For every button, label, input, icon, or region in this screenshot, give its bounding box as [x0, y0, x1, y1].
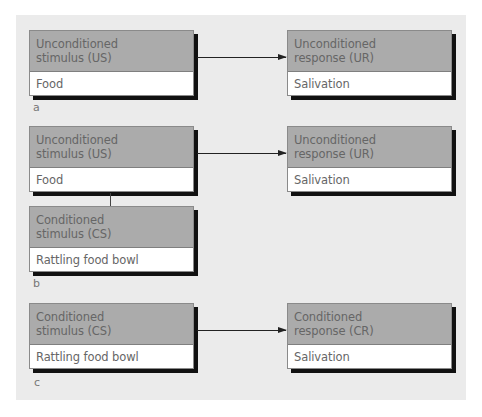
box-value: Salivation [288, 72, 451, 95]
box-header: Unconditioned stimulus (US) [30, 127, 193, 168]
box-b-unconditioned-stimulus: Unconditioned stimulus (US) Food [29, 126, 194, 192]
box-title-line2: response (CR) [294, 324, 445, 338]
box-title-line1: Unconditioned [36, 133, 187, 147]
box-title-line2: stimulus (CS) [36, 227, 187, 241]
box-header: Conditioned stimulus (CS) [30, 207, 193, 248]
pairing-connector-line [110, 193, 111, 206]
box-value: Rattling food bowl [30, 248, 193, 271]
box-header: Conditioned response (CR) [288, 304, 451, 345]
arrow-right-icon [197, 330, 286, 331]
box-b-conditioned-stimulus: Conditioned stimulus (CS) Rattling food … [29, 206, 194, 272]
section-label-b: b [33, 278, 40, 290]
box-title-line1: Unconditioned [36, 37, 187, 51]
arrow-right-icon [197, 57, 286, 58]
box-title-line2: response (UR) [294, 147, 445, 161]
box-value: Salivation [288, 345, 451, 368]
box-title-line1: Unconditioned [294, 37, 445, 51]
box-header: Unconditioned response (UR) [288, 127, 451, 168]
box-header: Unconditioned stimulus (US) [30, 31, 193, 72]
box-header: Unconditioned response (UR) [288, 31, 451, 72]
box-title-line2: stimulus (US) [36, 147, 187, 161]
box-c-conditioned-stimulus: Conditioned stimulus (CS) Rattling food … [29, 303, 194, 369]
box-title-line2: stimulus (US) [36, 51, 187, 65]
box-title-line2: response (UR) [294, 51, 445, 65]
box-value: Rattling food bowl [30, 345, 193, 368]
box-b-unconditioned-response: Unconditioned response (UR) Salivation [287, 126, 452, 192]
box-c-conditioned-response: Conditioned response (CR) Salivation [287, 303, 452, 369]
box-header: Conditioned stimulus (CS) [30, 304, 193, 345]
section-label-a: a [33, 102, 40, 114]
box-value: Food [30, 72, 193, 95]
box-title-line2: stimulus (CS) [36, 324, 187, 338]
arrow-right-icon [197, 153, 286, 154]
box-title-line1: Conditioned [294, 310, 445, 324]
box-title-line1: Conditioned [36, 310, 187, 324]
box-a-unconditioned-response: Unconditioned response (UR) Salivation [287, 30, 452, 96]
box-value: Salivation [288, 168, 451, 191]
box-value: Food [30, 168, 193, 191]
box-title-line1: Unconditioned [294, 133, 445, 147]
box-title-line1: Conditioned [36, 213, 187, 227]
box-a-unconditioned-stimulus: Unconditioned stimulus (US) Food [29, 30, 194, 96]
section-label-c: c [34, 377, 40, 389]
